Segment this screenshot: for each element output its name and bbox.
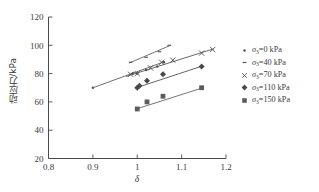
legend-label-4: σ3=150 kPa — [252, 95, 290, 105]
legend-item-1[interactable]: σ3=40 kPa — [240, 57, 318, 70]
y-tick-label: 80 — [35, 69, 45, 79]
y-tick-label: 120 — [30, 12, 44, 22]
legend-marker-filled-square-icon — [240, 96, 249, 105]
y-tick-label: 60 — [35, 97, 45, 107]
data-point-filled-diamond — [199, 64, 205, 70]
chart-figure: 20406080100120 0.80.911.11.2 δ 动应力/kPa σ… — [0, 0, 319, 192]
data-point-filled-square — [145, 100, 150, 105]
y-tick-label: 40 — [35, 125, 45, 135]
legend-marker-filled-diamond-icon — [240, 83, 249, 92]
x-tick-label: 1.1 — [176, 162, 187, 172]
series-fit-line — [129, 45, 170, 63]
data-point-small-dot — [92, 87, 95, 90]
x-axis-title: δ — [135, 174, 140, 184]
chart-legend: σ3=0 kPaσ3=40 kPaσ3=70 kPaσ3=110 kPaσ3=1… — [240, 44, 318, 107]
x-tick-label: 1 — [135, 162, 140, 172]
series-2 — [126, 47, 215, 77]
legend-label-1: σ3=40 kPa — [252, 58, 286, 68]
legend-label-3: σ3=110 kPa — [252, 83, 290, 93]
legend-item-0[interactable]: σ3=0 kPa — [240, 44, 318, 57]
x-tick-label: 1.2 — [220, 162, 231, 172]
legend-label-2: σ3=70 kPa — [252, 70, 286, 80]
series-4 — [135, 85, 204, 111]
x-tick-label: 0.8 — [43, 162, 55, 172]
legend-label-0: σ3=0 kPa — [252, 45, 282, 55]
data-series-layer — [92, 45, 216, 111]
series-fit-line — [136, 88, 203, 109]
data-point-filled-diamond — [160, 71, 166, 77]
x-axis-ticks: 0.80.911.11.2 — [43, 155, 232, 172]
y-axis-title: 动应力/kPa — [6, 58, 18, 104]
legend-marker-cross-x-icon — [240, 71, 249, 80]
data-point-filled-square — [161, 94, 166, 99]
legend-item-2[interactable]: σ3=70 kPa — [240, 69, 318, 82]
legend-item-3[interactable]: σ3=110 kPa — [240, 82, 318, 95]
legend-item-4[interactable]: σ3=150 kPa — [240, 94, 318, 107]
data-point-filled-square — [199, 85, 204, 90]
data-point-filled-square — [135, 107, 140, 112]
series-0 — [92, 61, 166, 89]
y-tick-label: 100 — [30, 41, 44, 51]
data-point-filled-diamond — [144, 78, 150, 84]
legend-marker-tick-dash-icon — [240, 58, 249, 67]
legend-marker-small-dot-icon — [240, 46, 249, 55]
series-fit-line — [93, 62, 165, 88]
x-tick-label: 0.9 — [87, 162, 99, 172]
series-1 — [129, 45, 171, 63]
series-3 — [134, 64, 204, 91]
series-fit-line — [126, 49, 213, 77]
y-axis-ticks: 20406080100120 — [30, 12, 53, 164]
